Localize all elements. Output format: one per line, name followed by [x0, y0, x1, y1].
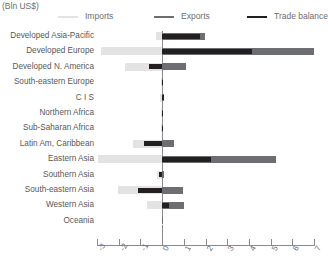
category-label: Southern Asia	[0, 170, 94, 180]
bar-trade-balance	[162, 157, 211, 162]
bar-trade-balance	[162, 111, 163, 116]
category-label: Latin Am, Caribbean	[0, 139, 94, 149]
category-label: Sub-Saharan Africa	[0, 123, 94, 133]
legend-swatch-icon	[154, 16, 174, 18]
unit-label: (Bln US$)	[2, 1, 39, 11]
bar-exports	[162, 140, 174, 147]
legend-label: Imports	[85, 10, 113, 23]
bar-trade-balance	[162, 95, 164, 100]
bar-trade-balance	[162, 49, 252, 54]
bar-trade-balance	[138, 188, 162, 193]
axis-tick-label: 7	[313, 244, 323, 252]
bar-trade-balance	[162, 34, 200, 39]
axis-tick-label: -2	[118, 242, 129, 253]
category-label: Northern Africa	[0, 108, 94, 118]
bar-exports	[162, 63, 186, 70]
category-label: Eastern Asia	[0, 154, 94, 164]
bar-imports	[101, 47, 162, 55]
bar-imports	[98, 155, 162, 163]
plot-area	[97, 31, 326, 240]
legend-label: Trade balance	[274, 10, 328, 23]
chart-legend: ImportsExportsTrade balance	[58, 10, 326, 23]
bar-trade-balance	[162, 203, 169, 208]
category-label: Developed Europe	[0, 46, 94, 56]
legend-item-exports[interactable]: Exports	[154, 10, 210, 23]
bar-trade-balance	[144, 141, 162, 146]
category-label: South-eastern Europe	[0, 77, 94, 87]
legend-swatch-icon	[247, 16, 267, 18]
bar-trade-balance	[162, 126, 163, 131]
category-label: South-eastern Asia	[0, 185, 94, 195]
bar-exports	[162, 187, 183, 194]
category-label: Developed N. America	[0, 62, 94, 72]
legend-item-imports[interactable]: Imports	[58, 10, 113, 23]
bar-imports	[147, 201, 162, 209]
category-axis-labels: Developed Asia-PacificDeveloped EuropeDe…	[0, 31, 94, 240]
legend-item-trade-balance[interactable]: Trade balance	[247, 10, 328, 23]
legend-swatch-icon	[58, 16, 78, 18]
legend-label: Exports	[181, 10, 210, 23]
category-label: C I S	[0, 93, 94, 103]
category-label: Western Asia	[0, 200, 94, 210]
axis-tick-label: -1	[139, 242, 150, 253]
category-label: Oceania	[0, 216, 94, 226]
bar-trade-balance	[159, 172, 162, 177]
bar-exports	[162, 171, 164, 178]
value-axis: -3-2-101234567	[97, 245, 326, 273]
category-label: Developed Asia-Pacific	[0, 31, 94, 41]
bar-trade-balance	[149, 64, 162, 69]
axis-tick-label: -3	[96, 242, 107, 253]
